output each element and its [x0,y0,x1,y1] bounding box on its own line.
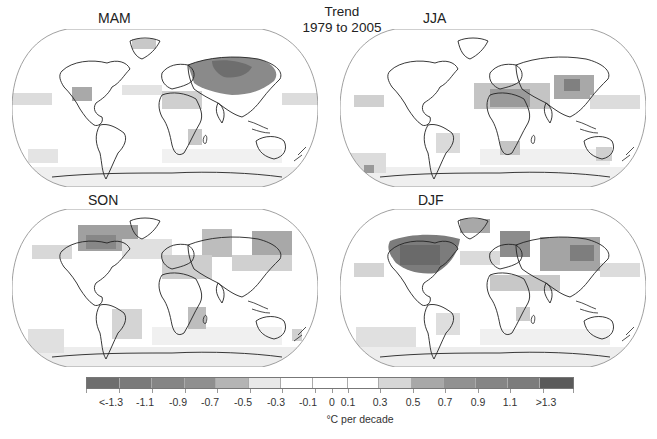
tick-label: -0.5 [234,396,252,408]
colorbar-segment [348,378,380,388]
colorbar-segment [281,378,314,388]
colorbar-tick [282,389,283,393]
panel-title-son: SON [88,192,118,208]
colorbar-unit-label: °C per decade [300,413,420,425]
colorbar-segment [444,378,477,388]
tick-label: >1.3 [536,396,557,408]
colorbar-segment [216,378,249,388]
panel-title-djf: DJF [418,192,444,208]
map-djf [340,209,646,367]
colorbar-segment [379,378,412,388]
tick-label: 0.5 [406,396,421,408]
colorbar-tick [348,389,349,393]
colorbar-tick [543,389,544,393]
tick-label: -0.3 [267,396,285,408]
tick-label: -0.9 [169,396,187,408]
title-line-1: Trend [282,4,402,20]
panel-title-mam: MAM [98,10,131,26]
colorbar-tick [413,389,414,393]
colorbar-segment [87,378,120,388]
colorbar-tick [332,389,333,393]
map-son [12,209,318,367]
colorbar-segment [476,378,508,388]
tick-label: 0.1 [341,396,356,408]
colorbar-tick [119,389,120,393]
tick-label: 0.3 [373,396,388,408]
map-mam [12,29,318,187]
colorbar-segment [249,378,281,388]
colorbar-segment [313,378,348,388]
colorbar-segment [508,378,541,388]
map-jja [340,29,646,187]
colorbar-tick [185,389,186,393]
colorbar-tick [478,389,479,393]
tick-label: -1.1 [136,396,154,408]
colorbar-tick [86,389,87,393]
colorbar [86,377,574,389]
colorbar-tick [315,389,316,393]
colorbar-tick [250,389,251,393]
panel-title-jja: JJA [423,10,446,26]
colorbar-segment [120,378,153,388]
tick-label: 0.9 [471,396,486,408]
colorbar-segment [412,378,444,388]
colorbar-segment [152,378,185,388]
tick-label: -0.1 [299,396,317,408]
colorbar-segment [540,378,573,388]
tick-label: -0.7 [201,396,219,408]
tick-label: <-1.3 [99,396,123,408]
colorbar-tick [445,389,446,393]
tick-label: 0.7 [438,396,453,408]
tick-label: 0 [329,396,335,408]
tick-label: 1.1 [503,396,518,408]
colorbar-tick [573,389,574,393]
colorbar-segment [185,378,217,388]
colorbar-tick [217,389,218,393]
colorbar-tick [152,389,153,393]
colorbar-tick [510,389,511,393]
colorbar-tick [380,389,381,393]
